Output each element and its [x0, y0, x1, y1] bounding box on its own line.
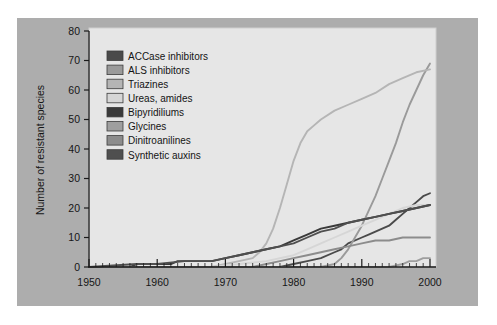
y-tick-label: 0 — [74, 261, 80, 273]
chart-container: 0102030405060708019501960197019801990200… — [0, 0, 497, 325]
legend-swatch — [107, 51, 123, 61]
legend-label: Glycines — [128, 121, 166, 132]
legend-label: ACCase inhibitors — [128, 51, 208, 62]
x-tick-label: 1950 — [77, 276, 101, 288]
legend-swatch — [107, 122, 123, 132]
plot-area-background — [89, 28, 436, 267]
y-tick-label: 70 — [68, 54, 80, 66]
legend-swatch — [107, 65, 123, 75]
y-tick-label: 50 — [68, 113, 80, 125]
line-chart: 0102030405060708019501960197019801990200… — [0, 0, 497, 325]
x-tick-label: 1960 — [146, 276, 170, 288]
legend-swatch — [107, 136, 123, 146]
y-tick-label: 60 — [68, 84, 80, 96]
y-tick-label: 80 — [68, 25, 80, 37]
legend-swatch — [107, 93, 123, 103]
x-tick-label: 2000 — [418, 276, 442, 288]
x-tick-label: 1990 — [350, 276, 374, 288]
legend-swatch — [107, 79, 123, 89]
legend-label: Ureas, amides — [128, 93, 192, 104]
y-axis-label: Number of resistant species — [34, 85, 46, 215]
y-tick-label: 30 — [68, 172, 80, 184]
figure-canvas: 0102030405060708019501960197019801990200… — [0, 0, 497, 325]
y-tick-label: 20 — [68, 202, 80, 214]
legend-label: Synthetic auxins — [128, 150, 201, 161]
legend-label: Triazines — [128, 79, 168, 90]
legend-label: Dinitroanilines — [128, 135, 191, 146]
y-tick-label: 10 — [68, 231, 80, 243]
legend-swatch — [107, 150, 123, 160]
y-tick-label: 40 — [68, 143, 80, 155]
legend-swatch — [107, 107, 123, 117]
x-tick-label: 1970 — [214, 276, 238, 288]
legend-label: Bipyridiliums — [128, 107, 184, 118]
legend-label: ALS inhibitors — [128, 65, 190, 76]
x-tick-label: 1980 — [282, 276, 306, 288]
